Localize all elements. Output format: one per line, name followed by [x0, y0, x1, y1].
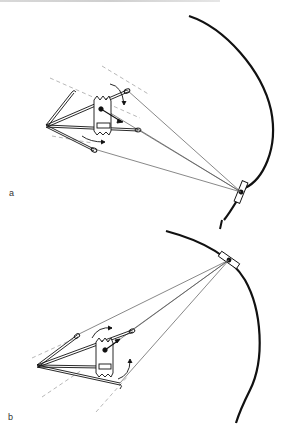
panel-a-force-lines: [94, 90, 241, 192]
panel-a-molar-tooth: [94, 96, 123, 135]
panel-a-face-bow: [46, 88, 141, 153]
panel-b-head-profile: [166, 231, 260, 423]
panel-b-diagram: [32, 220, 260, 423]
panel-a-diagram: [46, 16, 273, 220]
panel-label-b: b: [8, 412, 13, 422]
panel-b-molar-tooth: [96, 338, 120, 377]
panel-label-a: a: [9, 188, 14, 198]
panel-b-face-bow: [37, 328, 136, 389]
diagram-canvas: [0, 0, 281, 440]
panel-b-curve-stub: [220, 220, 222, 229]
